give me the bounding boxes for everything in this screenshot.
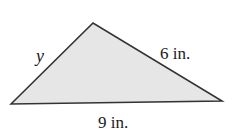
triangle-diagram: y 6 in. 9 in. <box>0 0 239 137</box>
side-label-base: 9 in. <box>98 113 128 132</box>
side-label-y: y <box>34 46 44 66</box>
side-label-right: 6 in. <box>160 44 190 63</box>
